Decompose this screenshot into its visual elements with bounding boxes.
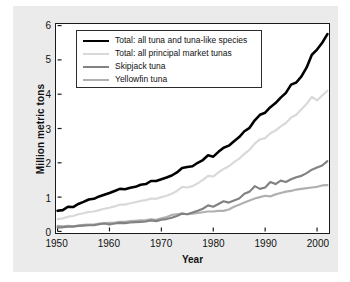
chart-figure: Million metric tons 0123456 Total: all t… bbox=[13, 6, 338, 272]
legend-item: Total: all principal market tunas bbox=[77, 47, 261, 60]
plot-area: Total: all tuna and tuna-like speciesTot… bbox=[55, 23, 330, 234]
legend-label: Total: all principal market tunas bbox=[115, 49, 232, 58]
y-tick-label: 1 bbox=[33, 192, 51, 203]
x-axis-tick-labels: 195019601970198019902000 bbox=[55, 238, 330, 252]
y-tick-label: 3 bbox=[33, 123, 51, 134]
legend-swatch-icon bbox=[83, 40, 109, 42]
y-tick-label: 2 bbox=[33, 158, 51, 169]
legend-item: Yellowfin tuna bbox=[77, 73, 261, 86]
legend-item: Total: all tuna and tuna-like species bbox=[77, 34, 261, 47]
y-tick-label: 4 bbox=[33, 88, 51, 99]
x-tick-label: 1960 bbox=[89, 238, 129, 249]
series-line bbox=[58, 91, 328, 219]
x-tick-label: 1950 bbox=[37, 238, 77, 249]
x-tick-label: 1990 bbox=[246, 238, 286, 249]
x-axis-label: Year bbox=[55, 254, 330, 265]
x-tick-label: 1970 bbox=[141, 238, 181, 249]
legend-label: Total: all tuna and tuna-like species bbox=[115, 36, 247, 45]
x-tick-label: 2000 bbox=[298, 238, 338, 249]
y-axis-tick-labels: 0123456 bbox=[29, 23, 51, 234]
legend-swatch-icon bbox=[83, 66, 109, 68]
legend-swatch-icon bbox=[83, 79, 109, 81]
x-tick-label: 1980 bbox=[193, 238, 233, 249]
chart-legend: Total: all tuna and tuna-like speciesTot… bbox=[76, 30, 262, 88]
legend-label: Yellowfin tuna bbox=[115, 75, 167, 84]
y-tick-label: 6 bbox=[33, 19, 51, 30]
series-line bbox=[58, 185, 328, 226]
legend-label: Skipjack tuna bbox=[115, 62, 166, 71]
series-line bbox=[58, 161, 328, 227]
y-tick-label: 0 bbox=[33, 227, 51, 238]
legend-swatch-icon bbox=[83, 53, 109, 55]
legend-item: Skipjack tuna bbox=[77, 60, 261, 73]
y-tick-label: 5 bbox=[33, 54, 51, 65]
